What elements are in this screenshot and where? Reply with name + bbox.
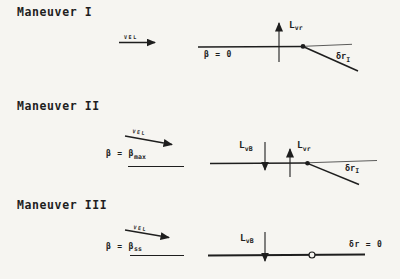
m2-vel-label: vel: [132, 128, 147, 137]
maneuver1-drawing: [119, 23, 358, 71]
maneuver1-title: Maneuver I: [17, 7, 92, 19]
m1-lvr-sub: vr: [295, 24, 303, 32]
m3-beta-label: β = βss: [106, 243, 142, 251]
m2-lvr-sub: vr: [303, 145, 311, 153]
m2-lvb-label: LvB: [239, 140, 253, 150]
m2-vel-arrow: [125, 136, 172, 145]
m2-baseline: [210, 163, 307, 164]
m1-rudder-label: δrI: [336, 52, 350, 61]
m3-beta-main: β = β: [106, 242, 134, 251]
m1-baseline: [198, 47, 304, 48]
m2-rudder-label: δrI: [345, 164, 359, 173]
m2-beta-main: β = β: [106, 149, 134, 158]
m2-baseline-right: [307, 161, 377, 163]
m3-vel-arrow: [125, 230, 169, 238]
m3-rudder-label: δr = 0: [349, 241, 383, 249]
diagram-lines: [0, 0, 400, 279]
m1-vel-label: vel: [124, 34, 138, 41]
figure-canvas: Maneuver I vel β = 0 Lvr δrI Maneuver II…: [0, 0, 400, 279]
maneuver3-title: Maneuver III: [17, 200, 107, 212]
m2-lvr-label: Lvr: [297, 140, 311, 150]
m2-beta-sub: max: [134, 153, 146, 161]
m1-beta-label: β = 0: [204, 51, 232, 59]
m1-rudder-main: δr: [336, 51, 346, 61]
m3-lvb-main: L: [240, 232, 246, 243]
m1-lvr-label: Lvr: [289, 20, 303, 30]
m3-vel-label: vel: [133, 224, 148, 233]
maneuver2-title: Maneuver II: [17, 101, 100, 113]
m3-baseline: [208, 255, 365, 256]
m3-hinge-open-dot: [309, 252, 315, 258]
m2-beta-label: β = βmax: [106, 150, 146, 158]
m3-beta-sub: ss: [134, 245, 142, 253]
m2-lvb-sub: vB: [245, 145, 253, 153]
m3-lvb-label: LvB: [240, 233, 254, 243]
m2-rudder-sub: I: [355, 167, 359, 175]
m1-baseline-right: [304, 44, 352, 46]
m2-rudder-main: δr: [345, 163, 355, 173]
m1-rudder-sub: I: [346, 56, 350, 64]
m3-lvb-sub: vB: [246, 237, 254, 245]
m2-lvb-main: L: [239, 139, 245, 150]
m2-lvr-main: L: [297, 139, 303, 150]
m1-lvr-main: L: [289, 19, 295, 30]
